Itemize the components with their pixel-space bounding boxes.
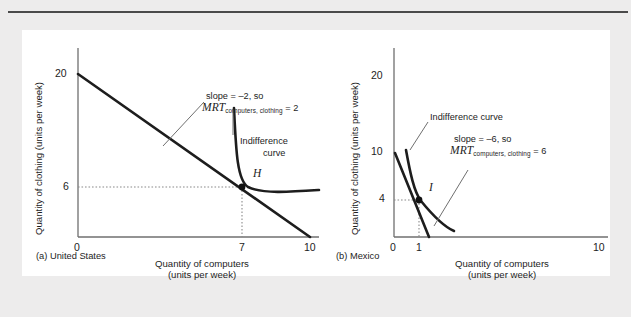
indifference-leader-line (410, 122, 428, 150)
point-i-marker (416, 197, 423, 204)
x-tick-10: 10 (304, 242, 316, 253)
mrt-annotation: MRTcomputers, clothing = 2 (202, 102, 298, 116)
y-axis-title: Quantity of clothing (units per week) (349, 82, 360, 235)
y-axis-title: Quantity of clothing (units per week) (33, 82, 44, 235)
y-tick-4: 4 (379, 193, 385, 204)
figure-container: Quantity of clothing (units per week) 20… (0, 0, 631, 317)
point-h-marker (239, 184, 246, 191)
ppf-line (395, 153, 429, 237)
x-axis-title-line1: Quantity of computers (432, 258, 572, 270)
mrt-symbol: MRT (450, 144, 473, 156)
panel-mexico: Quantity of clothing (units per week) 20… (322, 30, 610, 276)
x-axis-title-line1: Quantity of computers (132, 258, 272, 270)
point-label-h: H (253, 168, 261, 179)
panel-united-states: Quantity of clothing (units per week) 20… (22, 30, 322, 276)
x-tick-1: 1 (416, 242, 422, 253)
caption-panel-a: (a) United States (36, 251, 106, 262)
mrt-subscript: computers, clothing (473, 150, 530, 157)
mrt-value: = 6 (533, 146, 546, 156)
x-tick-7: 7 (239, 242, 245, 253)
mrt-subscript: computers, clothing (225, 107, 282, 114)
indifference-label-line2: curve (263, 147, 285, 159)
slope-leader-line (163, 102, 204, 146)
x-axis-title-line2: (units per week) (432, 269, 572, 281)
caption-panel-b: (b) Mexico (336, 251, 379, 262)
slope-leader-line (434, 170, 468, 226)
mrt-annotation: MRTcomputers, clothing = 6 (450, 145, 546, 159)
figure-card: Quantity of clothing (units per week) 20… (22, 30, 610, 276)
indifference-label-line1: Indifference curve (430, 111, 503, 123)
y-tick-20: 20 (55, 68, 67, 79)
mrt-value: = 2 (285, 103, 298, 113)
x-tick-0: 0 (390, 242, 396, 253)
y-tick-20: 20 (371, 70, 383, 81)
x-axis-title-line2: (units per week) (132, 269, 272, 281)
y-tick-10: 10 (371, 146, 383, 157)
indifference-label-line1: Indifference (240, 135, 288, 147)
mrt-symbol: MRT (202, 101, 225, 113)
figure-top-rule (8, 11, 628, 13)
point-label-i: I (429, 182, 433, 193)
x-tick-10: 10 (593, 242, 605, 253)
y-tick-6: 6 (63, 181, 69, 192)
